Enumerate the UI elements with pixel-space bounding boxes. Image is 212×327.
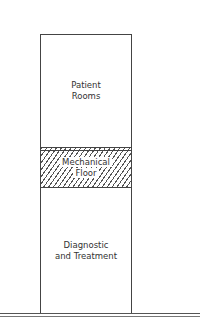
- building-section: PatientRooms MechanicalFloor Diagnostica…: [40, 34, 132, 314]
- ground-line: [0, 316, 200, 317]
- zone-label: Rooms: [71, 91, 101, 102]
- zone-diagnostic-treatment: Diagnosticand Treatment: [41, 188, 131, 313]
- zone-label: Mechanical: [60, 157, 112, 167]
- zone-label: Floor: [73, 168, 98, 178]
- zone-label: Patient: [71, 80, 101, 91]
- floor-divider: [41, 150, 131, 151]
- zone-label: Diagnostic: [55, 240, 117, 251]
- zone-label: and Treatment: [55, 251, 117, 262]
- ground-line: [0, 313, 200, 314]
- zone-patient-rooms: PatientRooms: [41, 35, 131, 147]
- zone-mechanical-floor: MechanicalFloor: [41, 147, 131, 188]
